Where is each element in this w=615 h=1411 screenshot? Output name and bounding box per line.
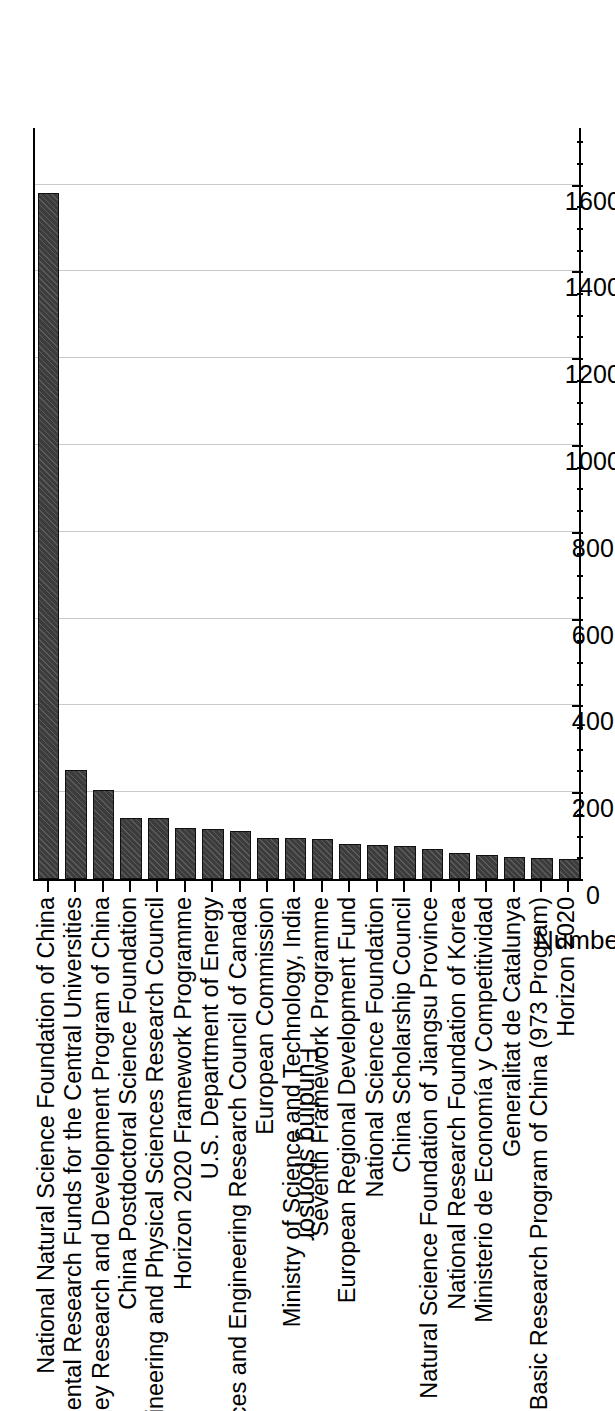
category-axis-tick-label: Horizon 2020 Framework Programme — [171, 897, 195, 1290]
value-axis-minor-tick — [577, 488, 583, 490]
value-axis-minor-tick — [577, 683, 583, 685]
value-axis-tick-label: 400 — [558, 707, 615, 736]
category-axis-tick — [265, 881, 267, 892]
category-axis-tick — [485, 881, 487, 892]
value-axis-tick-label: 1600 — [558, 186, 615, 215]
rotated-chart-canvas: Number of publications Funding sponsor 0… — [28, 111, 588, 1301]
category-axis-tick-label: National Research Foundation of Korea — [445, 897, 469, 1310]
category-axis-tick — [101, 881, 103, 892]
category-axis-tick — [320, 881, 322, 892]
category-axis-tick-label: National Science Foundation — [363, 897, 387, 1197]
category-axis-tick-label: National Basic Research Program of China… — [528, 897, 552, 1411]
category-axis-tick-label: National Key Research and Development Pr… — [89, 897, 113, 1411]
category-axis-tick — [567, 881, 569, 892]
category-axis-tick-label: Horizon 2020 — [555, 897, 579, 1037]
category-axis-tick — [156, 881, 158, 892]
category-axis-tick — [293, 881, 295, 892]
value-axis-minor-tick — [577, 662, 583, 664]
category-axis-tick-label: National Natural Science Foundation of C… — [34, 897, 58, 1374]
value-axis-major-tick — [572, 618, 583, 620]
value-axis-tick-label: 600 — [558, 620, 615, 649]
category-axis-tick-label: European Commission — [254, 897, 278, 1135]
value-axis-minor-tick — [577, 162, 583, 164]
category-axis-tick — [430, 881, 432, 892]
category-axis-tick — [74, 881, 76, 892]
value-axis-minor-tick — [577, 401, 583, 403]
category-axis-tick — [128, 881, 130, 892]
category-axis-tick-label: China Scholarship Council — [391, 897, 415, 1173]
category-axis-tick — [211, 881, 213, 892]
category-axis-tick — [348, 881, 350, 892]
value-axis-major-tick — [572, 531, 583, 533]
value-axis-minor-tick — [577, 748, 583, 750]
value-axis-minor-tick — [577, 423, 583, 425]
category-axis-tick-label: U.S. Department of Energy — [199, 897, 223, 1179]
category-axis-tick-label: Ministry of Science and Technology, Indi… — [281, 897, 305, 1327]
category-axis-tick — [457, 881, 459, 892]
category-axis-tick-label: Natural Science Foundation of Jiangsu Pr… — [418, 897, 442, 1399]
value-axis-major-tick — [572, 184, 583, 186]
value-axis-minor-tick — [577, 835, 583, 837]
category-axis-tick-label: Engineering and Physical Sciences Resear… — [144, 897, 168, 1411]
value-axis-tick-label: 1200 — [558, 360, 615, 389]
category-axis-tick — [46, 881, 48, 892]
category-axis-tick-label: Seventh Framework Programme — [308, 897, 332, 1237]
category-axis-tick-label: Fundamental Research Funds for the Centr… — [62, 897, 86, 1411]
category-axis-tick-label: European Regional Development Fund — [336, 897, 360, 1303]
value-axis-minor-tick — [577, 596, 583, 598]
value-axis-tick-label: 1400 — [558, 273, 615, 302]
value-axis-minor-tick — [577, 770, 583, 772]
category-axis-tick-label: Natural Sciences and Engineering Researc… — [226, 897, 250, 1411]
category-axis-tick — [539, 881, 541, 892]
value-axis-tick-label: 200 — [558, 794, 615, 823]
category-axis-tick-label: China Postdoctoral Science Foundation — [117, 897, 141, 1310]
category-axis-tick — [183, 881, 185, 892]
value-axis-minor-tick — [577, 249, 583, 251]
value-axis-minor-tick — [577, 510, 583, 512]
value-axis-tick-label: 800 — [558, 533, 615, 562]
category-axis-tick-label: Ministerio de Economía y Competitividad — [473, 897, 497, 1323]
value-axis-minor-tick — [577, 857, 583, 859]
value-axis-minor-tick — [577, 575, 583, 577]
value-axis-minor-tick — [577, 141, 583, 143]
value-axis-minor-tick — [577, 336, 583, 338]
value-axis-tick-label: 1000 — [558, 447, 615, 476]
plot-wrapper: Number of publications Funding sponsor 0… — [28, 111, 588, 1301]
category-axis-tick — [375, 881, 377, 892]
category-axis-tick — [238, 881, 240, 892]
category-axis-tick — [512, 881, 514, 892]
value-axis-minor-tick — [577, 228, 583, 230]
value-axis: 02004006008001000120014001600 — [33, 128, 581, 881]
value-axis-minor-tick — [577, 314, 583, 316]
figure-root: Number of publications Funding sponsor 0… — [0, 0, 615, 1411]
category-axis-tick — [402, 881, 404, 892]
category-axis-tick-label: Generalitat de Catalunya — [500, 897, 524, 1157]
